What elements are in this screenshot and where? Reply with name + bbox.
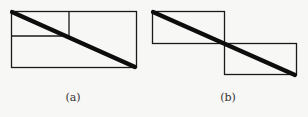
figure-a: (a)	[12, 12, 137, 105]
figure-a-diagonal	[12, 12, 135, 67]
figure-a-label: (a)	[65, 91, 80, 104]
figure-b-label: (b)	[220, 91, 236, 104]
diagram-canvas: (a) (b)	[0, 0, 308, 117]
figure-b: (b)	[153, 12, 297, 105]
